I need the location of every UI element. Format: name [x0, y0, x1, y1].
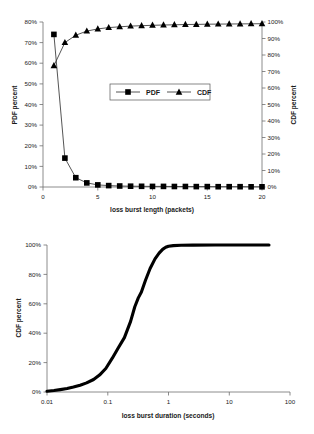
bottom-y-tick-60: 60% — [29, 300, 42, 307]
x-tick-20: 20 — [259, 193, 266, 200]
bottom-y-tick-20: 20% — [29, 359, 42, 366]
x-tick-10: 10 — [149, 193, 156, 200]
bottom-x-tick-labels: 0.01 0.1 1 10 100 — [41, 398, 296, 405]
right-tick-0: 0% — [268, 183, 277, 190]
bottom-chart-svg: 0% 20% 40% 60% 80% 100% 0.01 0.1 1 10 10… — [0, 216, 314, 434]
pdf-markers — [51, 32, 265, 190]
x-tick-15: 15 — [204, 193, 211, 200]
legend-label-cdf: CDF — [197, 89, 212, 96]
left-tick-70: 70% — [25, 39, 38, 46]
left-tick-0: 0% — [28, 183, 37, 190]
right-tick-80: 80% — [268, 51, 281, 58]
bottom-y-tick-80: 80% — [29, 271, 42, 278]
left-tick-10: 10% — [25, 163, 38, 170]
right-tick-10: 10% — [268, 167, 281, 174]
right-axis-ticks — [262, 22, 266, 187]
bottom-x-ticks — [47, 392, 290, 396]
left-tick-50: 50% — [25, 80, 38, 87]
bottom-x-tick-01: 0.1 — [103, 398, 112, 405]
x-tick-5: 5 — [96, 193, 100, 200]
bottom-y-tick-labels: 0% 20% 40% 60% 80% 100% — [25, 241, 41, 395]
left-tick-20: 20% — [25, 142, 38, 149]
left-tick-60: 60% — [25, 59, 38, 66]
left-axis-ticks — [40, 22, 44, 187]
bottom-y-tick-40: 40% — [29, 329, 42, 336]
left-tick-40: 40% — [25, 101, 38, 108]
legend-label-pdf: PDF — [146, 89, 161, 96]
x-axis-tick-labels: 0 5 10 15 20 — [41, 193, 266, 200]
right-tick-20: 20% — [268, 150, 281, 157]
bottom-y-tick-100: 100% — [25, 241, 41, 248]
right-tick-30: 30% — [268, 134, 281, 141]
bottom-x-axis-title: loss burst duration (seconds) — [122, 412, 215, 420]
right-tick-90: 90% — [268, 35, 281, 42]
bottom-cdf-curve — [47, 245, 269, 391]
left-tick-30: 30% — [25, 121, 38, 128]
bottom-y-ticks — [44, 245, 48, 392]
bottom-y-tick-0: 0% — [32, 388, 41, 395]
top-y-right-axis-title: CDF percent — [290, 85, 298, 125]
bottom-y-axis-title: CDF percent — [15, 298, 23, 338]
legend-square-marker — [125, 89, 131, 95]
bottom-x-tick-001: 0.01 — [41, 398, 54, 405]
top-x-axis-title: loss burst length (packets) — [110, 206, 194, 214]
cdf-markers — [51, 20, 266, 68]
cdf-burst-duration-chart: 0% 20% 40% 60% 80% 100% 0.01 0.1 1 10 10… — [0, 216, 314, 434]
bottom-x-tick-1: 1 — [167, 398, 171, 405]
chart-legend: PDF CDF — [110, 84, 212, 100]
pdf-series-line — [54, 34, 262, 186]
right-tick-100: 100% — [268, 18, 284, 25]
pdf-cdf-burst-length-chart: 0% 10% 20% 30% 40% 50% 60% 70% 80% 0% — [0, 0, 314, 218]
right-tick-60: 60% — [268, 84, 281, 91]
left-axis-tick-labels: 0% 10% 20% 30% 40% 50% 60% 70% 80% — [25, 18, 38, 190]
right-axis-tick-labels: 0% 10% 20% 30% 40% 50% 60% 70% 80% 90% 1… — [268, 18, 284, 190]
right-tick-40: 40% — [268, 117, 281, 124]
top-chart-svg: 0% 10% 20% 30% 40% 50% 60% 70% 80% 0% — [0, 0, 314, 218]
top-y-left-axis-title: PDF percent — [11, 85, 19, 125]
right-tick-70: 70% — [268, 68, 281, 75]
left-tick-80: 80% — [25, 18, 38, 25]
bottom-x-tick-100: 100 — [285, 398, 296, 405]
cdf-series-line — [54, 24, 262, 66]
bottom-x-tick-10: 10 — [226, 398, 233, 405]
x-tick-0: 0 — [41, 193, 45, 200]
right-tick-50: 50% — [268, 101, 281, 108]
